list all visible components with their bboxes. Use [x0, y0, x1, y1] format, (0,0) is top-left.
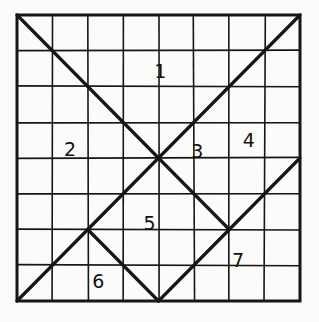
grid-line-horizontal	[17, 86, 300, 87]
grid-line-horizontal	[17, 229, 300, 230]
label-2: 2	[64, 138, 76, 160]
label-1: 1	[154, 60, 166, 82]
label-6: 6	[92, 270, 104, 292]
grid-line-horizontal	[17, 265, 300, 266]
figure-root: 1234567	[0, 0, 319, 322]
label-3: 3	[191, 140, 203, 162]
label-5: 5	[144, 212, 156, 234]
label-7: 7	[232, 249, 244, 271]
label-4: 4	[243, 129, 255, 151]
grid-dissection-figure: 1234567	[0, 0, 319, 322]
